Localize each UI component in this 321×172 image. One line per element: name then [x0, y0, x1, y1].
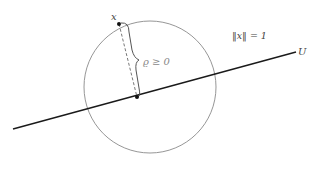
point-x: [117, 22, 121, 26]
diagram-canvas: x ‖x‖ = 1 ϱ ≥ 0 U: [0, 0, 321, 172]
point-x-label: x: [111, 11, 117, 22]
subspace-u-label: U: [298, 46, 307, 57]
norm-label: ‖x‖ = 1: [232, 30, 267, 42]
unit-circle: [84, 21, 216, 153]
distance-brace: [121, 23, 140, 97]
projection-dashed-line: [119, 24, 137, 97]
projection-point: [135, 95, 139, 99]
distance-label: ϱ ≥ 0: [143, 56, 171, 67]
